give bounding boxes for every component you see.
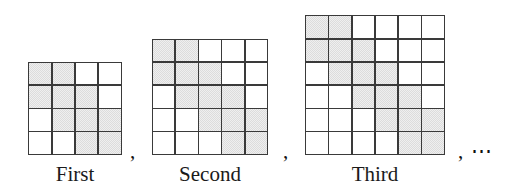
grid-cell-empty xyxy=(329,109,351,131)
grid-sequence-figure: , , , ⋯ First Second Third xyxy=(0,0,507,196)
grid-cell-shaded xyxy=(306,40,328,62)
grid-cell-shaded xyxy=(99,132,121,154)
grid-cell-empty xyxy=(153,132,175,154)
grid-cell-shaded xyxy=(399,132,421,154)
grid-cell-empty xyxy=(53,132,75,154)
term-label-third: Third xyxy=(352,161,399,187)
grid-cell-empty xyxy=(222,40,244,62)
grid-cell-shaded xyxy=(399,109,421,131)
grid-cell-shaded xyxy=(376,86,398,108)
grid-cell-shaded xyxy=(399,86,421,108)
grid-cell-shaded xyxy=(53,109,75,131)
grid-cell-shaded xyxy=(222,109,244,131)
grid-cell-empty xyxy=(376,132,398,154)
grid-cell-empty xyxy=(246,40,268,62)
grid-first xyxy=(28,62,121,155)
grid-cell-empty xyxy=(246,63,268,85)
term-label-second: Second xyxy=(179,161,241,187)
grid-cell-empty xyxy=(76,63,98,85)
grid-cell-empty xyxy=(306,109,328,131)
grid-cell-shaded xyxy=(376,63,398,85)
term-label-first: First xyxy=(56,161,95,187)
grid-cell-shaded xyxy=(353,40,375,62)
grid-cell-empty xyxy=(222,63,244,85)
grid-cell-empty xyxy=(176,132,198,154)
grid-cell-shaded xyxy=(153,63,175,85)
grid-cell-shaded xyxy=(53,86,75,108)
grid-cell-shaded xyxy=(29,86,51,108)
grid-cell-shaded xyxy=(329,63,351,85)
grid-third xyxy=(305,15,445,155)
grid-cell-empty xyxy=(422,16,444,38)
grid-second xyxy=(152,39,268,155)
grid-cell-shaded xyxy=(222,132,244,154)
grid-cell-empty xyxy=(99,86,121,108)
grid-cell-shaded xyxy=(246,132,268,154)
grid-cell-shaded xyxy=(176,63,198,85)
grid-cell-empty xyxy=(376,16,398,38)
grid-cell-empty xyxy=(153,109,175,131)
grid-cell-shaded xyxy=(76,109,98,131)
grid-cell-shaded xyxy=(246,109,268,131)
grid-cell-empty xyxy=(199,132,221,154)
grid-cell-shaded xyxy=(329,16,351,38)
grid-cell-shaded xyxy=(353,86,375,108)
grid-row: , , , ⋯ xyxy=(0,0,507,155)
grid-cell-shaded xyxy=(76,86,98,108)
grid-cell-shaded xyxy=(176,40,198,62)
grid-cell-empty xyxy=(399,16,421,38)
grid-cell-shaded xyxy=(199,63,221,85)
grid-cell-shaded xyxy=(353,63,375,85)
grid-cell-shaded xyxy=(329,40,351,62)
grid-cell-empty xyxy=(329,132,351,154)
grid-cell-shaded xyxy=(222,86,244,108)
sequence-term-second xyxy=(152,39,268,155)
grid-cell-empty xyxy=(353,16,375,38)
grid-cell-empty xyxy=(422,86,444,108)
sequence-term-third xyxy=(305,15,445,155)
grid-cell-empty xyxy=(376,40,398,62)
sequence-term-first xyxy=(28,62,121,155)
grid-cell-empty xyxy=(246,86,268,108)
grid-cell-shaded xyxy=(76,132,98,154)
grid-cell-shaded xyxy=(306,16,328,38)
grid-cell-shaded xyxy=(99,109,121,131)
grid-cell-empty xyxy=(329,86,351,108)
grid-cell-empty xyxy=(99,63,121,85)
grid-cell-empty xyxy=(422,40,444,62)
grid-cell-empty xyxy=(422,63,444,85)
grid-cell-empty xyxy=(353,132,375,154)
grid-cell-shaded xyxy=(422,132,444,154)
grid-cell-shaded xyxy=(176,86,198,108)
grid-cell-shaded xyxy=(53,63,75,85)
grid-cell-empty xyxy=(29,132,51,154)
grid-cell-shaded xyxy=(199,109,221,131)
grid-cell-empty xyxy=(29,109,51,131)
grid-cell-empty xyxy=(306,132,328,154)
grid-cell-empty xyxy=(353,109,375,131)
grid-cell-shaded xyxy=(422,109,444,131)
grid-cell-empty xyxy=(306,63,328,85)
grid-cell-shaded xyxy=(153,40,175,62)
grid-cell-shaded xyxy=(29,63,51,85)
grid-cell-shaded xyxy=(199,86,221,108)
grid-cell-empty xyxy=(306,86,328,108)
grid-cell-shaded xyxy=(376,109,398,131)
grid-cell-empty xyxy=(399,40,421,62)
label-row: First Second Third xyxy=(0,155,507,196)
grid-cell-empty xyxy=(199,40,221,62)
grid-cell-empty xyxy=(153,86,175,108)
grid-cell-empty xyxy=(399,63,421,85)
grid-cell-empty xyxy=(176,109,198,131)
